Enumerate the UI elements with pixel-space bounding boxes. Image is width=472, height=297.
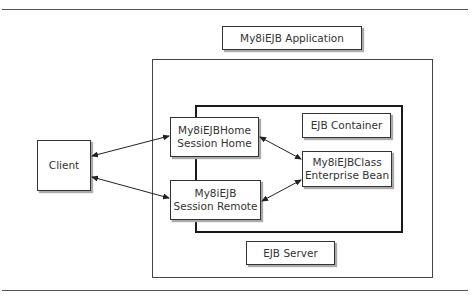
arrow-home-bean — [260, 137, 301, 159]
connection-arrows — [0, 0, 472, 297]
arrow-remote-bean — [262, 180, 301, 201]
arrow-client-remote — [92, 177, 169, 198]
arrow-client-home — [92, 136, 169, 156]
